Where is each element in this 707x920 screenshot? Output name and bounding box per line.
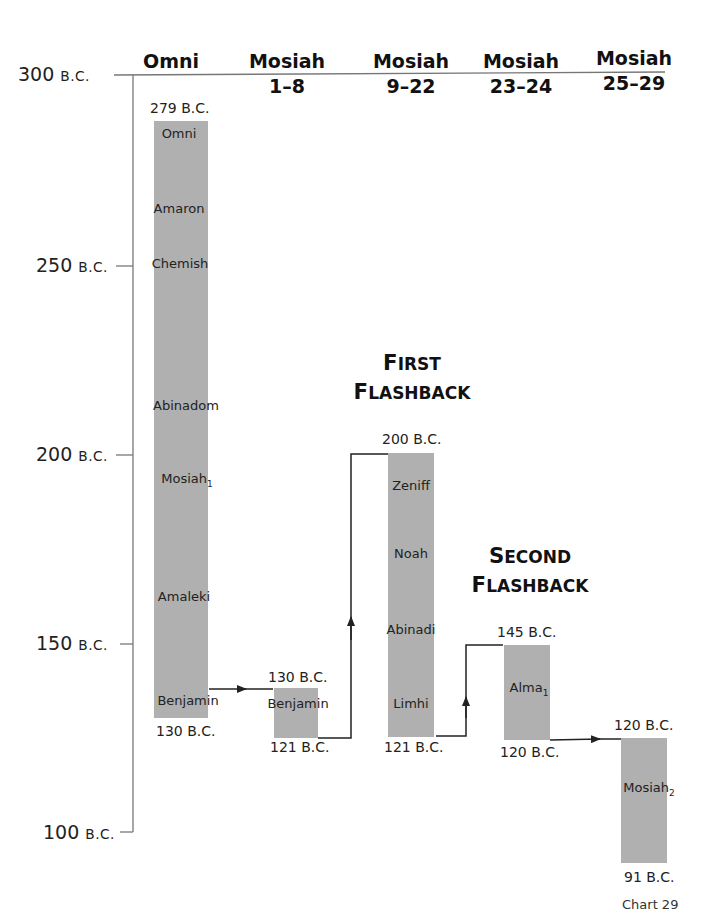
person-alma1: Alma1 <box>502 680 556 698</box>
omni-start-date: 279 B.C. <box>150 100 209 116</box>
column-header-line1: Mosiah <box>356 50 466 72</box>
second-flashback-title: SECOND FLASHBACK <box>470 542 590 600</box>
column-header-line1: Mosiah <box>232 50 342 72</box>
column-header-line2: 1–8 <box>232 75 342 97</box>
column-header-mosiah-23-24: Mosiah 23–24 <box>466 50 576 97</box>
axis-label-150: 150 B.C. <box>36 632 108 654</box>
first-flashback-title: FIRST FLASHBACK <box>352 349 472 407</box>
zeniff-start-date: 200 B.C. <box>382 431 441 447</box>
column-header-line2: 23–24 <box>466 75 576 97</box>
person-benjamin: Benjamin <box>150 693 226 708</box>
person-abinadi: Abinadi <box>380 622 442 637</box>
mosiah2-end-date: 91 B.C. <box>624 869 675 885</box>
benjamin-start-date: 130 B.C. <box>268 669 327 685</box>
axis-label-250: 250 B.C. <box>36 254 108 276</box>
zeniff-bar <box>388 453 434 737</box>
benjamin-end-date: 121 B.C. <box>270 739 329 755</box>
column-header-line2: 9–22 <box>356 75 466 97</box>
person-limhi: Limhi <box>386 696 436 711</box>
person-noah: Noah <box>386 546 436 561</box>
column-header-line2: 25–29 <box>579 72 689 94</box>
axis-label-100: 100 B.C. <box>43 821 115 843</box>
mosiah2-start-date: 120 B.C. <box>614 717 673 733</box>
person-benjamin-2: Benjamin <box>260 696 336 711</box>
alma-start-date: 145 B.C. <box>497 624 556 640</box>
axis-label-300: 300 B.C. <box>18 63 90 85</box>
axis-label-200: 200 B.C. <box>36 443 108 465</box>
column-header-mosiah-1-8: Mosiah 1–8 <box>232 50 342 97</box>
column-header-omni: Omni <box>116 50 226 72</box>
person-omni: Omni <box>154 126 204 141</box>
chart-number: Chart 29 <box>622 897 678 912</box>
column-header-mosiah-25-29: Mosiah 25–29 <box>579 47 689 94</box>
column-header-line1: Mosiah <box>579 47 689 69</box>
person-mosiah2: Mosiah2 <box>616 780 682 798</box>
person-abinadom: Abinadom <box>148 398 224 413</box>
person-mosiah1: Mosiah1 <box>152 471 222 489</box>
person-amaleki: Amaleki <box>152 589 216 604</box>
alma-end-date: 120 B.C. <box>500 744 559 760</box>
column-header-line1: Mosiah <box>466 50 576 72</box>
person-zeniff: Zeniff <box>386 478 436 493</box>
zeniff-end-date: 121 B.C. <box>384 739 443 755</box>
person-amaron: Amaron <box>148 201 210 216</box>
column-header-line1: Omni <box>116 50 226 72</box>
column-header-mosiah-9-22: Mosiah 9–22 <box>356 50 466 97</box>
omni-end-date: 130 B.C. <box>156 723 215 739</box>
mosiah2-bar <box>621 738 667 863</box>
person-chemish: Chemish <box>148 256 212 271</box>
